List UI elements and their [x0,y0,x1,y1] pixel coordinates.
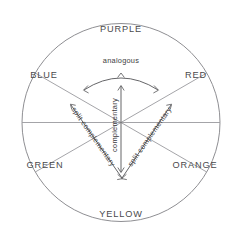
analogous-label: analogous [103,56,139,65]
sector-label-yellow: YELLOW [99,209,143,219]
sector-label-purple: PURPLE [100,24,142,34]
sector-label-blue: BLUE [30,70,58,80]
sector-label-green: GREEN [26,160,63,170]
sector-label-orange: ORANGE [172,160,217,170]
color-wheel-canvas: PURPLE RED ORANGE YELLOW GREEN BLUE anal… [0,0,241,244]
complementary-label: complementary [110,98,119,152]
sector-label-red: RED [185,70,207,80]
color-wheel-diagram: PURPLE RED ORANGE YELLOW GREEN BLUE anal… [0,0,241,244]
